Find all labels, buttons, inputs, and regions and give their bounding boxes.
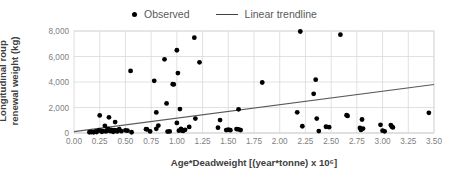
gridlines xyxy=(74,31,434,133)
data-point xyxy=(175,71,180,76)
x-tick-label: 3.00 xyxy=(375,137,391,146)
data-point xyxy=(426,110,431,115)
data-point xyxy=(156,123,161,128)
data-point xyxy=(187,124,192,129)
data-point xyxy=(152,78,157,83)
data-point xyxy=(193,116,198,121)
data-point xyxy=(183,127,188,132)
data-point xyxy=(360,117,365,122)
data-point xyxy=(378,122,383,127)
data-point xyxy=(300,124,305,129)
data-point xyxy=(345,114,350,119)
data-point xyxy=(174,121,179,126)
y-tick-label: 0 xyxy=(64,129,69,138)
data-point xyxy=(236,107,241,112)
x-tick-label: 0.00 xyxy=(66,137,82,146)
x-tick-label: 1.75 xyxy=(246,137,262,146)
x-tick-label: 1.50 xyxy=(220,137,236,146)
data-point xyxy=(164,101,169,106)
data-point xyxy=(154,110,159,115)
data-point xyxy=(314,116,319,121)
x-tick-label: 1.00 xyxy=(169,137,185,146)
data-point xyxy=(327,125,332,130)
scatter-chart: Observed Linear trendline Longitudinal r… xyxy=(0,0,449,181)
data-point xyxy=(197,60,202,65)
x-tick-label: 2.00 xyxy=(272,137,288,146)
x-tick-label: 0.25 xyxy=(92,137,108,146)
y-tick-label: 8,000 xyxy=(49,27,70,36)
data-point xyxy=(228,128,233,133)
y-tick-labels: 02,0004,0006,0008,000 xyxy=(49,27,70,138)
x-tick-label: 0.50 xyxy=(117,137,133,146)
plot-svg: 0.000.250.500.751.001.251.501.752.002.25… xyxy=(0,0,449,181)
data-point xyxy=(113,120,118,125)
x-tick-label: 2.75 xyxy=(349,137,365,146)
data-point xyxy=(148,129,153,134)
data-point xyxy=(119,129,124,134)
data-point xyxy=(295,110,300,115)
data-point xyxy=(238,128,243,133)
data-point xyxy=(129,130,134,135)
x-tick-labels: 0.000.250.500.751.001.251.501.752.002.25… xyxy=(66,137,442,146)
y-tick-label: 6,000 xyxy=(49,53,70,62)
x-tick-label: 1.25 xyxy=(195,137,211,146)
x-tick-label: 0.75 xyxy=(143,137,159,146)
data-point xyxy=(97,113,102,118)
plot-area: 0.000.250.500.751.001.251.501.752.002.25… xyxy=(0,0,449,181)
data-point xyxy=(316,129,321,134)
data-point xyxy=(382,129,387,134)
data-point xyxy=(192,35,197,40)
data-point xyxy=(128,69,133,74)
y-tick-label: 2,000 xyxy=(49,104,70,113)
data-point xyxy=(167,129,172,134)
data-point xyxy=(178,107,183,112)
data-point xyxy=(125,128,130,133)
data-point xyxy=(361,126,366,131)
data-point xyxy=(171,82,176,87)
data-point xyxy=(390,125,395,130)
data-point xyxy=(216,125,221,130)
data-point xyxy=(174,48,179,53)
y-tick-label: 4,000 xyxy=(49,78,70,87)
data-point xyxy=(338,32,343,37)
data-point xyxy=(162,57,167,62)
data-point xyxy=(218,118,223,123)
data-point xyxy=(260,80,265,85)
x-tick-label: 3.50 xyxy=(426,137,442,146)
x-tick-label: 2.50 xyxy=(323,137,339,146)
data-point xyxy=(313,77,318,82)
x-tick-label: 3.25 xyxy=(400,137,416,146)
x-tick-label: 2.25 xyxy=(297,137,313,146)
data-point xyxy=(311,91,316,96)
data-point xyxy=(107,115,112,120)
data-point xyxy=(298,29,303,34)
